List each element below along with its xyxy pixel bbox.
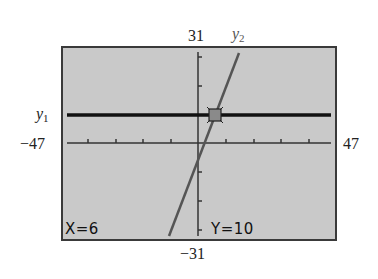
trace-readout-x: X=6 [65, 220, 99, 238]
trace-cursor [207, 107, 223, 123]
graph-plot [0, 0, 378, 279]
y2-line [169, 53, 239, 236]
trace-readout-y: Y=10 [211, 220, 254, 238]
